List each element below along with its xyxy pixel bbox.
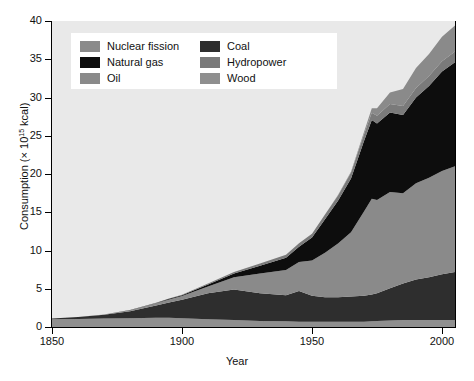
y-tick-label-35: 35	[30, 53, 42, 64]
legend-swatch-icon	[200, 57, 220, 68]
legend-swatch-icon	[80, 57, 100, 68]
y-tick-label-30: 30	[30, 92, 42, 103]
energy-consumption-chart: 0510152025303540 1850190019502000 Year C…	[0, 0, 474, 381]
x-tick-label-1950: 1950	[282, 336, 342, 347]
y-tick-label-15: 15	[30, 206, 42, 217]
y-axis-title: Consumption (× 1015 kcal)	[18, 56, 31, 276]
y-tick-0	[45, 327, 51, 328]
y-axis-title-tail: kcal)	[18, 103, 30, 129]
legend-label: Natural gas	[107, 56, 163, 68]
y-axis-title-main: Consumption (× 10	[18, 137, 30, 230]
y-tick-label-20: 20	[30, 168, 42, 179]
x-tick-2000	[442, 328, 443, 334]
y-tick-5	[45, 289, 51, 290]
y-axis-title-exponent: 15	[18, 129, 25, 137]
legend-item-nuclear-fission[interactable]: Nuclear fission	[80, 38, 186, 54]
legend-swatch-icon	[200, 41, 220, 52]
y-tick-label-25: 25	[30, 130, 42, 141]
x-axis-title: Year	[0, 355, 474, 367]
legend-swatch-icon	[80, 41, 100, 52]
legend-label: Hydropower	[227, 56, 286, 68]
y-tick-30	[45, 98, 51, 99]
y-tick-15	[45, 212, 51, 213]
legend-item-wood[interactable]: Wood	[200, 70, 330, 86]
y-tick-10	[45, 251, 51, 252]
y-axis-line	[51, 21, 52, 328]
legend-swatch-icon	[80, 73, 100, 84]
x-tick-label-2000: 2000	[412, 336, 472, 347]
legend-grid: Nuclear fissionCoalNatural gasHydropower…	[80, 38, 330, 86]
x-axis-line	[51, 327, 456, 328]
legend-item-natural-gas[interactable]: Natural gas	[80, 54, 186, 70]
legend-item-coal[interactable]: Coal	[200, 38, 330, 54]
y-tick-label-5: 5	[36, 283, 42, 294]
legend: Nuclear fissionCoalNatural gasHydropower…	[71, 33, 337, 89]
x-tick-1900	[182, 328, 183, 334]
right-spine	[455, 21, 456, 328]
y-tick-20	[45, 174, 51, 175]
legend-label: Wood	[227, 72, 256, 84]
y-tick-40	[45, 21, 51, 22]
legend-label: Coal	[227, 40, 250, 52]
y-tick-35	[45, 59, 51, 60]
y-tick-25	[45, 136, 51, 137]
legend-swatch-icon	[200, 73, 220, 84]
y-tick-label-40: 40	[30, 15, 42, 26]
y-tick-label-10: 10	[30, 245, 42, 256]
legend-label: Oil	[107, 72, 120, 84]
y-tick-label-0: 0	[36, 321, 42, 332]
legend-item-oil[interactable]: Oil	[80, 70, 186, 86]
legend-item-hydropower[interactable]: Hydropower	[200, 54, 330, 70]
legend-label: Nuclear fission	[107, 40, 179, 52]
x-tick-label-1900: 1900	[152, 336, 212, 347]
x-tick-1950	[312, 328, 313, 334]
x-tick-label-1850: 1850	[22, 336, 82, 347]
x-tick-1850	[52, 328, 53, 334]
